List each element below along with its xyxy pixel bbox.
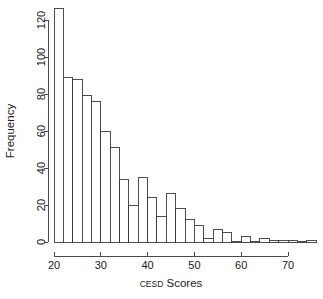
x-axis-title-acronym: CESD [140,279,164,289]
histogram-bar [288,240,297,242]
x-tick-label: 60 [235,259,247,271]
histogram-bar [129,205,138,242]
histogram-bar [91,101,100,242]
histogram-bar [110,148,119,242]
histogram-bar [232,241,241,242]
histogram-figure: 020406080100120203040506070CESD ScoresFr… [0,0,323,299]
histogram-bar [222,233,231,242]
x-axis-title: CESD Scores [140,277,203,289]
bars-group [54,9,316,242]
y-axis: 020406080100120 [35,11,48,245]
histogram-bar [148,198,157,242]
x-axis-title-text: CESD Scores [140,277,203,289]
x-tick-label: 40 [141,259,153,271]
y-tick-label: 60 [35,125,47,137]
y-tick-label: 20 [35,199,47,211]
x-axis: 203040506070 [48,252,294,271]
histogram-bar [176,209,185,242]
histogram-bar [185,220,194,242]
x-axis-title-rest: Scores [163,277,202,289]
histogram-bar [279,240,288,242]
histogram-bar [297,241,306,242]
x-tick-label: 50 [188,259,200,271]
histogram-bar [63,77,72,242]
histogram-bar [101,131,110,242]
y-tick-label: 40 [35,162,47,174]
y-tick-label: 100 [35,48,47,66]
histogram-bar [269,240,278,242]
histogram-bar [157,216,166,242]
x-tick-label: 70 [282,259,294,271]
histogram-bar [213,229,222,242]
histogram-bar [260,238,269,242]
y-tick-label: 80 [35,88,47,100]
y-tick-label: 0 [35,239,47,245]
histogram-bar [194,225,203,242]
histogram-bar [138,177,147,242]
histogram-bar [120,179,129,242]
x-tick-label: 30 [95,259,107,271]
x-tick-label: 20 [48,259,60,271]
histogram-bar [241,236,250,242]
y-tick-label: 120 [35,11,47,29]
histogram-bar [54,9,63,242]
histogram-bar [166,194,175,242]
histogram-bar [251,241,260,242]
histogram-bar [204,238,213,242]
y-axis-title-text: Frequency [4,104,16,159]
histogram-plot: 020406080100120203040506070CESD ScoresFr… [0,0,323,299]
y-axis-title: Frequency [4,104,16,159]
histogram-bar [82,96,91,242]
histogram-bar [73,79,82,242]
histogram-bar [307,240,316,242]
